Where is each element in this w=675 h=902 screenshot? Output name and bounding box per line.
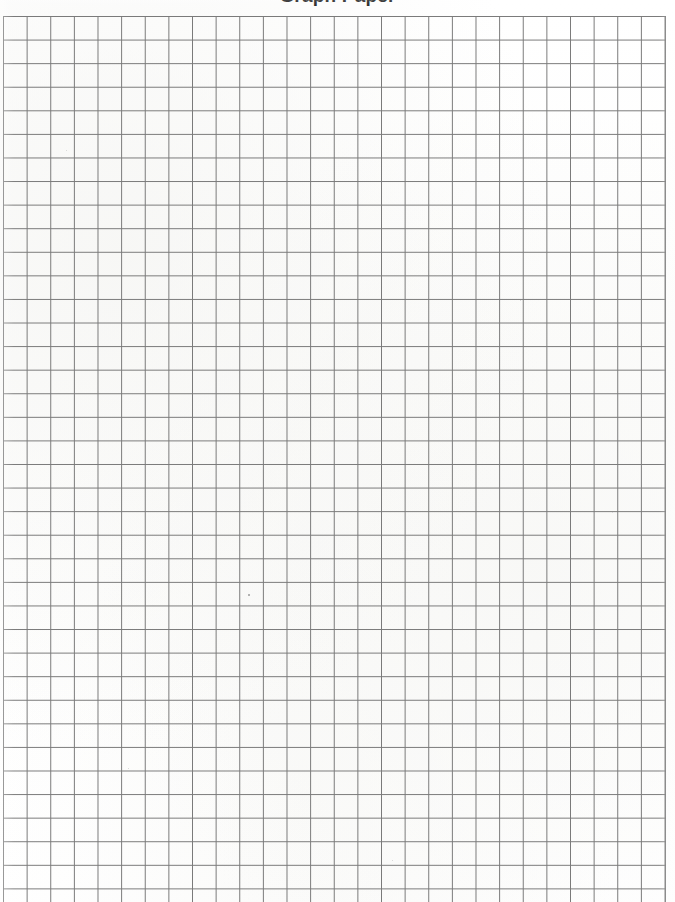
grid-area	[3, 16, 666, 902]
page-title-cropped: Graph Paper	[0, 0, 675, 7]
page-title: Graph Paper	[0, 0, 675, 7]
graph-paper-page: Graph Paper	[0, 0, 675, 902]
grid-right-border	[665, 16, 666, 902]
graph-paper-grid	[3, 16, 666, 902]
